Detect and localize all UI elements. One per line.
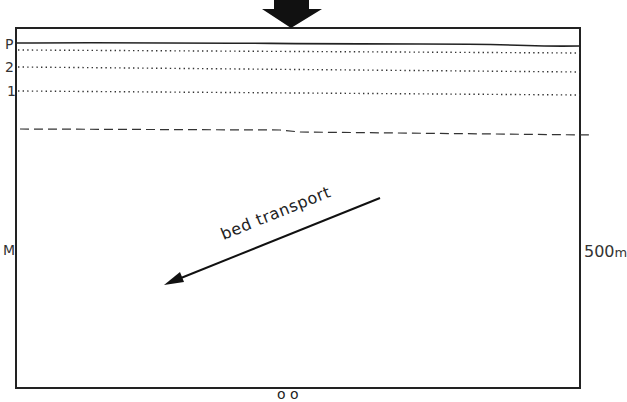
line-p <box>16 43 580 46</box>
label-m: M <box>3 243 15 257</box>
label-level-2: 2 <box>5 60 14 74</box>
bottom-cut-label: o o <box>277 387 299 401</box>
scale-unit: m <box>615 245 627 260</box>
scale-label: 500m <box>584 245 627 260</box>
scale-value: 500 <box>584 242 615 261</box>
dotted-line-1 <box>18 91 580 95</box>
dotted-line-2 <box>18 67 580 72</box>
dotted-line-p <box>18 50 580 53</box>
label-level-1: 1 <box>7 84 16 98</box>
dashed-line <box>20 129 592 135</box>
down-arrow-icon <box>262 0 322 28</box>
transport-arrowhead-icon <box>164 272 184 285</box>
label-p: P <box>5 37 13 51</box>
